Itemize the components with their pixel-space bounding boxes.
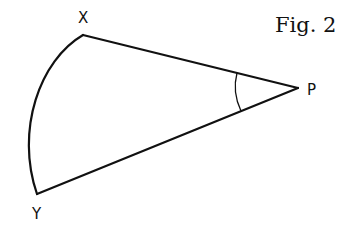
arc-xy [29, 35, 83, 194]
sector-diagram: X P Y Fig. 2 [0, 0, 361, 237]
angle-mark-p [235, 73, 241, 111]
segment-py [37, 88, 298, 194]
label-x: X [78, 9, 88, 27]
segment-px [83, 35, 298, 88]
figure-title: Fig. 2 [275, 13, 336, 37]
label-y: Y [31, 205, 42, 223]
label-p: P [307, 81, 316, 99]
